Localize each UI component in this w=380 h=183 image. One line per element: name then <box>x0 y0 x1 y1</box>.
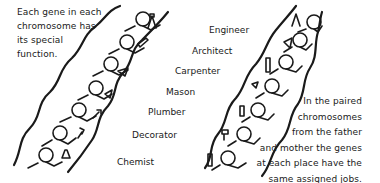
saw-icon <box>138 38 148 47</box>
caption-right-line: same assigned jobs. <box>192 172 362 183</box>
compass-icon <box>292 14 300 26</box>
gene-label-plumber: Plumber <box>148 107 185 117</box>
caption-right-line: In the paired <box>192 94 362 110</box>
trowel-icon <box>252 82 258 88</box>
caption-right: In the paired chromosomes from the fathe… <box>192 94 362 183</box>
caption-right-line: and mother the genes <box>192 141 362 157</box>
caption-right-line: chromosomes <box>192 110 362 126</box>
flask-icon <box>62 150 70 158</box>
set-square-icon <box>284 38 292 48</box>
caption-left: Each gene in each chromosome has its spe… <box>17 5 127 61</box>
caption-left-line: function. <box>17 47 127 61</box>
caption-right-line: at each place have the <box>192 156 362 172</box>
gene-label-carpenter: Carpenter <box>175 66 220 76</box>
paintbrush-icon <box>78 128 84 138</box>
saw-icon <box>266 58 270 72</box>
caption-right-line: from the father <box>192 125 362 141</box>
gene-label-mason: Mason <box>166 87 195 97</box>
gene-label-chemist: Chemist <box>117 157 154 167</box>
gene-label-engineer: Engineer <box>209 25 249 35</box>
gene-label-decorator: Decorator <box>132 130 177 140</box>
caption-left-line: its special <box>17 33 127 47</box>
caption-left-line: Each gene in each <box>17 5 127 19</box>
caption-left-line: chromosome has <box>17 19 127 33</box>
gene-label-architect: Architect <box>192 46 232 56</box>
